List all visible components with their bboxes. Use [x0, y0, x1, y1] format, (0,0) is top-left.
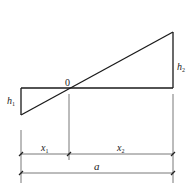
x2-label: x2: [116, 142, 124, 154]
h2-label: h2: [177, 61, 185, 73]
x1-label: x1: [40, 142, 48, 154]
h1-label: h1: [7, 95, 15, 107]
zero-label: 0: [65, 77, 70, 88]
diagram-canvas: 0 h1 h2 x1 x2 a: [0, 0, 189, 195]
a-label: a: [94, 160, 100, 172]
sloped-line: [21, 32, 173, 115]
